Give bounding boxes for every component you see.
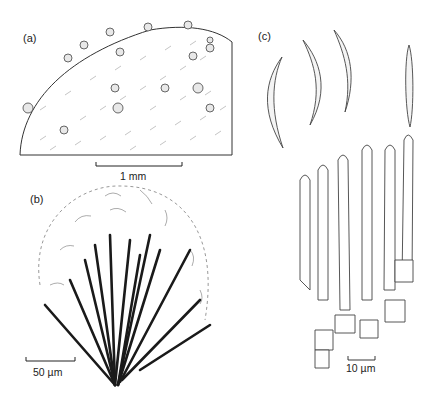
panel-c-label: (c) [258,30,271,42]
panel-b-label: (b) [30,193,43,205]
figure-illustration [0,0,436,400]
panel-c-scale-label: 10 µm [346,362,375,374]
panel-b-drawing [26,186,210,385]
panel-b-scale-label: 50 µm [33,366,62,378]
panel-a-label: (a) [23,32,36,44]
panel-a-scale-label: 1 mm [120,170,146,182]
panel-c-drawing [267,30,413,368]
panel-a-drawing [20,21,232,166]
